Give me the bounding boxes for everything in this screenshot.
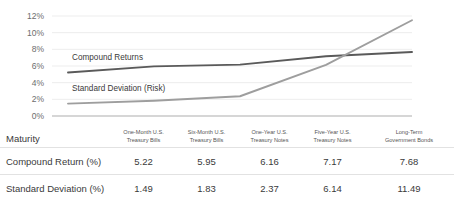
y-axis-tick-label: 4% [32, 78, 45, 88]
column-header-line2: Treasury Notes [313, 137, 351, 143]
data-table-container: Maturity One-Month U.S. Treasury Bills S… [0, 124, 430, 208]
table-row: Standard Deviation (%) 1.49 1.83 2.37 6.… [0, 175, 454, 202]
y-axis-tick-label: 8% [32, 44, 45, 54]
table-cell: 1.83 [175, 175, 238, 202]
table-cell: 1.49 [112, 175, 175, 202]
table-cell: 6.16 [238, 148, 301, 175]
y-axis-tick-label: 6% [32, 61, 45, 71]
row-label: Standard Deviation (%) [0, 175, 112, 202]
table-row: Compound Return (%) 5.22 5.95 6.16 7.17 … [0, 148, 454, 175]
table-cell: 6.14 [301, 175, 364, 202]
line-chart: 0%2%4%6%8%10%12% Compound ReturnsStandar… [0, 0, 430, 124]
table-column-header: Long-Term Government Bonds [364, 124, 454, 148]
chart-gridlines [52, 16, 412, 116]
table-column-header: One-Year U.S. Treasury Notes [238, 124, 301, 148]
column-header-line1: Six-Month U.S. [188, 129, 226, 135]
table-row-header-label: Maturity [0, 124, 112, 148]
table-cell: 5.95 [175, 148, 238, 175]
y-axis-tick-label: 10% [27, 28, 44, 38]
table-cell: 2.37 [238, 175, 301, 202]
column-header-line1: Five-Year U.S. [314, 129, 350, 135]
table-cell: 7.17 [301, 148, 364, 175]
chart-series-annotations: Compound ReturnsStandard Deviation (Risk… [72, 53, 166, 92]
table-column-header: Five-Year U.S. Treasury Notes [301, 124, 364, 148]
series-annotation-label: Compound Returns [72, 53, 143, 62]
column-header-line1: One-Month U.S. [123, 129, 163, 135]
column-header-line2: Treasury Bills [127, 137, 161, 143]
data-table: Maturity One-Month U.S. Treasury Bills S… [0, 124, 454, 201]
y-axis-tick-label: 12% [27, 11, 44, 21]
column-header-line2: Government Bonds [385, 137, 433, 143]
chart-y-axis-ticks: 0%2%4%6%8%10%12% [27, 11, 44, 121]
y-axis-tick-label: 0% [32, 111, 45, 121]
table-column-header: One-Month U.S. Treasury Bills [112, 124, 175, 148]
y-axis-tick-label: 2% [32, 94, 45, 104]
column-header-line2: Treasury Bills [190, 137, 224, 143]
column-header-line1: Long-Term [396, 129, 423, 135]
column-header-line2: Treasury Notes [250, 137, 288, 143]
table-cell: 11.49 [364, 175, 454, 202]
table-cell: 7.68 [364, 148, 454, 175]
series-annotation-label: Standard Deviation (Risk) [72, 84, 166, 93]
table-cell: 5.22 [112, 148, 175, 175]
column-header-line1: One-Year U.S. [251, 129, 287, 135]
table-column-header: Six-Month U.S. Treasury Bills [175, 124, 238, 148]
row-label: Compound Return (%) [0, 148, 112, 175]
table-header-row: Maturity One-Month U.S. Treasury Bills S… [0, 124, 454, 148]
